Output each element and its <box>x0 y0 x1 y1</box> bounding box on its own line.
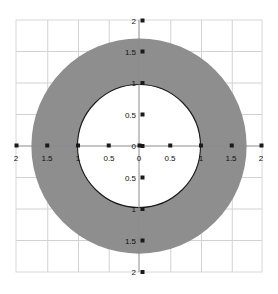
y-tick-label: 1 <box>132 205 136 214</box>
x-tick-label: 2 <box>259 154 263 163</box>
x-tick-label: 1.5 <box>41 154 52 163</box>
x-tick-label: 0 <box>137 154 141 163</box>
x-tick-label: 1 <box>199 154 203 163</box>
y-tick-label: 0.5 <box>125 111 136 120</box>
x-tick-label: 0.5 <box>164 154 175 163</box>
y-tick-label: 0.5 <box>125 174 136 183</box>
y-tick-label: 2 <box>132 268 136 277</box>
x-tick-label: 1.5 <box>225 154 236 163</box>
plot-figure: 2 1.5 1 0.5 0 0.5 1 1.5 2 2 1.5 1 0.5 0 … <box>0 0 278 294</box>
y-tick-label: 1.5 <box>125 237 136 246</box>
x-tick-label: 0.5 <box>103 154 114 163</box>
x-tick-label: 2 <box>14 154 18 163</box>
plot-canvas <box>0 0 278 294</box>
y-tick-label: 1.5 <box>125 48 136 57</box>
y-tick-label: 0 <box>132 142 136 151</box>
y-tick-label: 2 <box>132 17 136 26</box>
x-tick-label: 1 <box>76 154 80 163</box>
y-tick-label: 1 <box>132 79 136 88</box>
